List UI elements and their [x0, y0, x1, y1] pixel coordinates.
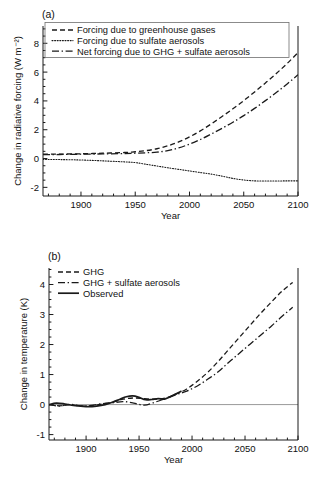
panel-b: (b)19001950200020502100Year-101234Change…	[18, 250, 309, 465]
y-tick-label: 6	[34, 67, 39, 78]
y-axis-title: Change in temperature (K)	[18, 298, 29, 410]
series-line-forcing-due-to-sulfate-aerosols	[43, 159, 298, 181]
y-tick-label: -1	[37, 429, 45, 440]
y-axis-title: Change in radiative forcing (W m⁻²)	[12, 36, 23, 186]
y-tick-label: -2	[31, 182, 39, 193]
panel-label-a: (a)	[42, 8, 55, 20]
x-tick-label: 2100	[287, 443, 308, 454]
x-tick-label: 2050	[234, 443, 255, 454]
y-tick-label: 2	[40, 339, 45, 350]
x-tick-label: 1900	[76, 443, 97, 454]
y-tick-label: 3	[40, 309, 45, 320]
y-tick-label: 0	[34, 153, 39, 164]
legend-label: GHG + sulfate aerosols	[83, 278, 180, 288]
series-line-forcing-due-to-greenhouse-gases	[43, 53, 298, 155]
y-tick-label: 2	[34, 124, 39, 135]
series-group	[43, 53, 298, 181]
y-tick-label: 8	[34, 38, 39, 49]
legend-label: Forcing due to greenhouse gases	[77, 25, 216, 35]
series-group	[49, 282, 293, 406]
series-line-ghg	[49, 282, 293, 406]
x-tick-label: 1900	[70, 199, 91, 210]
x-tick-label: 2000	[179, 199, 200, 210]
legend-label: Forcing due to sulfate aerosols	[77, 36, 204, 46]
y-tick-label: 1	[40, 369, 45, 380]
legend-label: Observed	[83, 289, 123, 299]
series-line-ghg-sulfate-aerosols	[49, 307, 293, 406]
x-axis-title: Year	[164, 454, 183, 465]
x-axis-title: Year	[161, 210, 180, 221]
y-tick-label: 4	[40, 279, 45, 290]
x-tick-label: 2000	[181, 443, 202, 454]
y-tick-label: 0	[40, 399, 45, 410]
legend-label: Net forcing due to GHG + sulfate aerosol…	[77, 47, 250, 57]
figure-root: (a)19001950200020502100Year-202468Change…	[0, 0, 320, 483]
x-tick-label: 2100	[287, 199, 308, 210]
x-tick-label: 1950	[125, 199, 146, 210]
legend-a: Forcing due to greenhouse gasesForcing d…	[45, 23, 289, 58]
panel-a: (a)19001950200020502100Year-202468Change…	[12, 8, 309, 221]
legend-b: GHGGHG + sulfate aerosolsObserved	[58, 267, 180, 298]
legend-label: GHG	[83, 267, 104, 277]
figure-canvas: (a)19001950200020502100Year-202468Change…	[0, 0, 320, 483]
x-tick-label: 2050	[233, 199, 254, 210]
panel-label-b: (b)	[48, 250, 61, 262]
series-line-net-forcing-due-to-ghg-sulfate-aerosols	[43, 75, 298, 155]
y-tick-label: 4	[34, 95, 39, 106]
x-tick-label: 1950	[128, 443, 149, 454]
